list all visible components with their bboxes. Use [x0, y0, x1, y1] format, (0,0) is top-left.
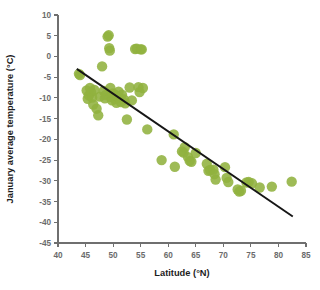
y-tick-label: -35: [39, 198, 51, 207]
data-point: [210, 174, 220, 184]
y-axis-tick-labels: 1050-5-10-15-20-25-30-35-40-45: [39, 11, 51, 248]
y-tick-label: 5: [46, 32, 51, 41]
data-point: [93, 110, 103, 120]
x-tick-label: 70: [219, 251, 229, 260]
data-point: [142, 124, 152, 134]
data-point: [267, 181, 277, 191]
data-point: [138, 83, 148, 93]
y-tick-label: -30: [39, 177, 51, 186]
data-point: [105, 45, 115, 55]
x-tick-label: 85: [301, 251, 311, 260]
data-point: [104, 30, 114, 40]
y-tick-label: -5: [44, 73, 52, 82]
data-point: [122, 114, 132, 124]
x-tick-label: 60: [164, 251, 174, 260]
chart-canvas: 1050-5-10-15-20-25-30-35-40-45 404550556…: [0, 0, 320, 290]
x-tick-label: 65: [191, 251, 201, 260]
x-axis-title: Latitude (°N): [154, 268, 209, 278]
data-point: [137, 44, 147, 54]
scatter-plot-figure: 1050-5-10-15-20-25-30-35-40-45 404550556…: [0, 0, 320, 290]
y-tick-label: 0: [46, 52, 51, 61]
x-axis-tick-marks: [58, 243, 306, 247]
data-point: [156, 155, 166, 165]
data-point: [170, 162, 180, 172]
y-tick-label: -10: [39, 94, 51, 103]
y-tick-label: -40: [39, 218, 51, 227]
data-point: [223, 177, 233, 187]
axis-lines: [58, 15, 306, 243]
data-point: [286, 176, 296, 186]
y-tick-label: -25: [39, 156, 51, 165]
y-tick-label: 10: [42, 11, 52, 20]
x-tick-label: 40: [53, 251, 63, 260]
x-tick-label: 50: [109, 251, 119, 260]
y-tick-label: -20: [39, 135, 51, 144]
x-axis-tick-labels: 40455055606570758085: [53, 251, 311, 260]
y-axis-tick-marks: [54, 15, 58, 243]
data-point: [97, 61, 107, 71]
x-tick-label: 80: [274, 251, 284, 260]
y-tick-label: -15: [39, 115, 51, 124]
data-points: [74, 30, 297, 197]
y-axis-title: January average temperature (°C): [5, 55, 15, 204]
y-tick-label: -45: [39, 239, 51, 248]
trend-line: [77, 69, 293, 217]
x-tick-label: 75: [246, 251, 256, 260]
x-tick-label: 45: [81, 251, 91, 260]
x-tick-label: 55: [136, 251, 146, 260]
